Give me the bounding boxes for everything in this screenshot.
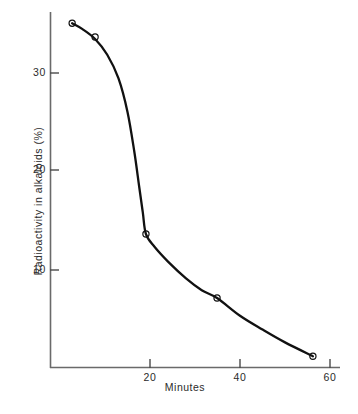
chart-figure <box>0 0 358 414</box>
x-axis-title: Minutes <box>130 381 240 393</box>
y-tick-label-30: 30 <box>20 66 46 78</box>
y-axis-title: Radioactivity in alkaloids (%) <box>32 101 44 301</box>
x-tick-label-60: 60 <box>315 371 345 383</box>
